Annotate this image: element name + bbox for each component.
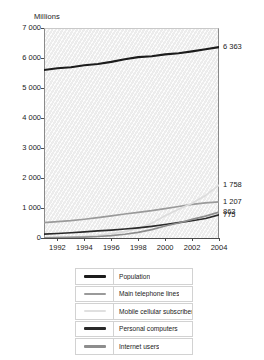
legend-item[interactable]: Mobile cellular subscribers [75,303,193,320]
x-axis-tick-label: 2004 [204,243,234,252]
legend-swatch-cell [76,322,114,337]
x-axis-tick-mark [219,238,220,241]
x-axis-tick-mark [111,238,112,241]
legend-item-label: Internet users [114,343,159,350]
legend-swatch-cell [76,287,114,302]
legend-item[interactable]: Population [75,268,193,285]
legend-item[interactable]: Main telephone lines [75,286,193,303]
x-axis-tick-label: 2000 [150,243,180,252]
legend-item[interactable]: Personal computers [75,321,193,338]
y-axis-tick-label: 7 000 [1,23,41,32]
chart-legend: PopulationMain telephone linesMobile cel… [75,268,193,356]
plot-area [44,28,219,238]
series-line [44,47,219,70]
legend-item-label: Personal computers [114,325,178,332]
legend-color-swatch [84,293,106,295]
legend-color-swatch [84,327,106,330]
legend-item-label: Main telephone lines [114,290,179,297]
x-axis-tick-mark [138,238,139,241]
x-axis-tick-mark [165,238,166,241]
y-axis-tick-label: 1 000 [1,203,41,212]
y-axis-tick-label: 6 000 [1,53,41,62]
x-axis-tick-mark [192,238,193,241]
legend-item-label: Mobile cellular subscribers [114,308,192,315]
legend-color-swatch [84,345,106,348]
x-axis-tick-label: 1996 [96,243,126,252]
y-axis-tick-label: 2 000 [1,173,41,182]
y-axis-tick-label: 4 000 [1,113,41,122]
end-value-label: 775 [223,210,236,219]
y-axis-tick-label: 3 000 [1,143,41,152]
x-axis-tick-label: 1992 [42,243,72,252]
y-axis-tick-label: 5 000 [1,83,41,92]
legend-swatch-cell [76,269,114,284]
legend-item-label: Population [114,273,150,280]
x-axis-tick-label: 1998 [123,243,153,252]
x-axis-line [44,238,220,239]
legend-color-swatch [84,275,106,278]
x-axis-tick-mark [57,238,58,241]
chart-container: Millions 01 0002 0003 0004 0005 0006 000… [0,0,264,360]
series-lines [44,28,219,238]
legend-item[interactable]: Internet users [75,338,193,355]
end-value-label: 1 758 [223,180,242,189]
series-line [44,185,219,237]
x-axis-tick-mark [84,238,85,241]
x-axis-tick-label: 1994 [69,243,99,252]
legend-swatch-cell [76,304,114,319]
y-axis-tick-group: 01 0002 0003 0004 0005 0006 0007 000 [0,0,41,360]
end-value-label: 6 363 [223,42,242,51]
y-axis-tick-label: 0 [1,233,41,242]
end-value-label: 1 207 [223,197,242,206]
series-line [44,212,219,238]
legend-swatch-cell [76,339,114,354]
legend-color-swatch [84,310,106,312]
series-line [44,215,219,234]
x-axis-tick-label: 2002 [177,243,207,252]
